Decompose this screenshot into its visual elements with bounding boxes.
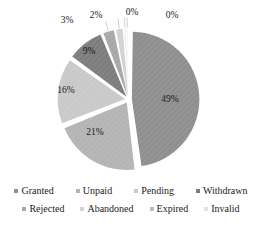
legend-swatch-icon bbox=[76, 189, 80, 193]
legend-label: Expired bbox=[157, 203, 189, 215]
callout-label-expired: 0% bbox=[126, 7, 139, 17]
legend-swatch-icon bbox=[196, 189, 200, 193]
legend-item-withdrawn[interactable]: Withdrawn bbox=[196, 185, 248, 197]
legend-item-unpaid[interactable]: Unpaid bbox=[76, 185, 112, 197]
callout-label-rejected: 3% bbox=[61, 15, 74, 25]
legend-item-pending[interactable]: Pending bbox=[134, 185, 174, 197]
legend-label: Invalid bbox=[211, 203, 239, 215]
chart-legend: Granted Unpaid Pending Withdrawn Rejecte… bbox=[0, 183, 262, 217]
slice-label-granted: 49% bbox=[161, 94, 179, 104]
legend-item-expired[interactable]: Expired bbox=[150, 203, 189, 215]
slice-label-withdrawn: 9% bbox=[83, 46, 96, 56]
legend-swatch-icon bbox=[204, 207, 208, 211]
pie-chart-figure: 49% 21% 16% 9% 3% 2% 0% 0% Granted Unpai… bbox=[0, 0, 262, 229]
pie-leader-lines bbox=[105, 18, 127, 31]
legend-swatch-icon bbox=[134, 189, 138, 193]
legend-label: Granted bbox=[21, 185, 53, 197]
legend-item-granted[interactable]: Granted bbox=[14, 185, 53, 197]
leader-line-rejected bbox=[105, 21, 108, 31]
callout-label-invalid: 0% bbox=[166, 10, 179, 20]
pie-slice-texture bbox=[127, 29, 128, 96]
legend-label: Rejected bbox=[29, 203, 64, 215]
legend-label: Pending bbox=[141, 185, 174, 197]
legend-row: Granted Unpaid Pending Withdrawn bbox=[0, 183, 262, 199]
leader-line-abandoned bbox=[118, 18, 119, 28]
legend-row: Rejected Abandoned Expired Invalid bbox=[0, 201, 262, 217]
legend-item-rejected[interactable]: Rejected bbox=[22, 203, 64, 215]
leader-line-expired bbox=[124, 18, 125, 28]
legend-label: Abandoned bbox=[87, 203, 133, 215]
legend-swatch-icon bbox=[22, 207, 26, 211]
legend-item-abandoned[interactable]: Abandoned bbox=[80, 203, 133, 215]
slice-label-unpaid: 21% bbox=[86, 127, 104, 137]
legend-swatch-icon bbox=[80, 207, 84, 211]
legend-item-invalid[interactable]: Invalid bbox=[204, 203, 239, 215]
legend-label: Unpaid bbox=[83, 185, 112, 197]
legend-swatch-icon bbox=[14, 189, 18, 193]
legend-label: Withdrawn bbox=[203, 185, 248, 197]
legend-swatch-icon bbox=[150, 207, 154, 211]
callout-label-abandoned: 2% bbox=[90, 10, 103, 20]
slice-label-pending: 16% bbox=[57, 85, 75, 95]
